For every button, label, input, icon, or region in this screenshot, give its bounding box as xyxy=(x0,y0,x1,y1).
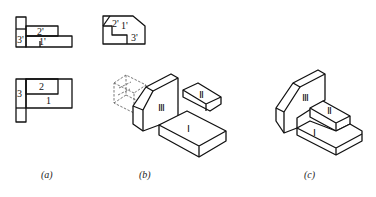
label-3prime-side: 3' xyxy=(131,32,138,43)
three-view-diagram: 3' 2' 1' 2' 1' 3' 3 2 1 Ⅲ Ⅱ xyxy=(0,0,376,197)
top-view: 3 2 1 xyxy=(16,79,72,122)
caption-b: (b) xyxy=(139,169,151,181)
label-1prime-front: 1' xyxy=(39,36,46,47)
block-I-label-assembled: Ⅰ xyxy=(313,127,316,138)
label-3-top: 3 xyxy=(17,88,22,99)
caption-a: (a) xyxy=(41,169,53,181)
exploded-isometric-view: Ⅲ Ⅱ Ⅰ xyxy=(114,74,226,157)
label-2prime-side: 2' xyxy=(112,18,119,29)
label-1-top: 1 xyxy=(46,95,51,106)
front-view: 3' 2' 1' xyxy=(16,17,72,47)
block-I-label: Ⅰ xyxy=(187,123,190,134)
caption-c: (c) xyxy=(304,169,316,181)
label-1prime-side: 1' xyxy=(121,20,128,31)
label-3prime-front: 3' xyxy=(17,34,24,45)
block-III-label-assembled: Ⅲ xyxy=(302,92,309,103)
side-view: 2' 1' 3' xyxy=(103,16,145,44)
label-2-top: 2 xyxy=(39,81,44,92)
block-II-label-assembled: Ⅱ xyxy=(327,105,332,116)
block-II-label: Ⅱ xyxy=(199,89,204,100)
block-III-label: Ⅲ xyxy=(158,102,165,113)
assembled-isometric-view: Ⅲ Ⅱ Ⅰ xyxy=(276,70,362,155)
